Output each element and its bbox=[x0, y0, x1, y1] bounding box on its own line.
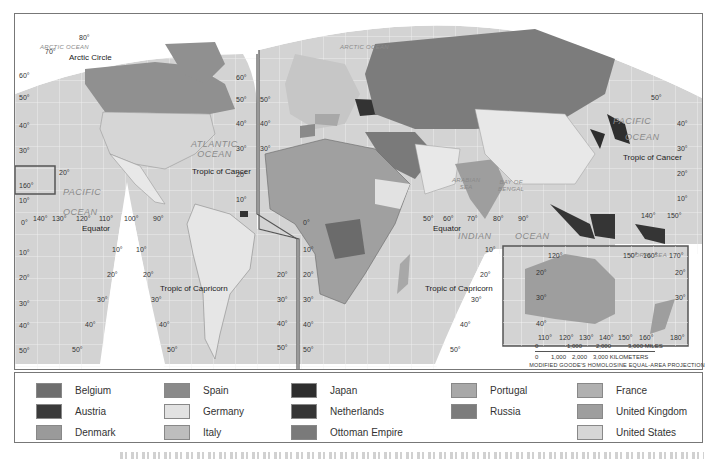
legend-item-japan: Japan bbox=[291, 381, 403, 400]
lon-label: 150° bbox=[623, 252, 637, 259]
lat-label: 30° bbox=[675, 294, 686, 301]
legend-swatch bbox=[36, 425, 62, 440]
ocean-label: BAY OF BENGAL bbox=[498, 179, 524, 193]
world-map: ARCTIC OCEAN ARCTIC OCEAN ATLANTIC OCEAN… bbox=[14, 13, 703, 370]
lon-label: 60° bbox=[443, 215, 454, 222]
legend-swatch bbox=[164, 425, 190, 440]
lat-label: 20° bbox=[536, 269, 547, 276]
lon-label: 160° bbox=[19, 182, 33, 189]
lon-label: 90° bbox=[518, 215, 529, 222]
ocean-label: OCEAN bbox=[625, 132, 660, 142]
lat-label: 40° bbox=[277, 320, 288, 327]
lat-label: 0° bbox=[303, 219, 310, 226]
lat-label: 30° bbox=[151, 296, 162, 303]
lon-label: 50° bbox=[423, 215, 434, 222]
lon-label: 130° bbox=[52, 215, 66, 222]
lat-label: 40° bbox=[85, 321, 96, 328]
lat-label: 60° bbox=[19, 72, 30, 79]
map-scale: 0 1,000 2,000 3,000 MILES 0 1,000 2,000 … bbox=[520, 340, 705, 372]
lat-label: 10° bbox=[303, 246, 314, 253]
scale-miles-2000: 2,000 bbox=[596, 343, 611, 349]
legend-swatch bbox=[451, 404, 477, 419]
legend-label: Netherlands bbox=[330, 406, 384, 417]
legend-swatch bbox=[36, 404, 62, 419]
lat-label: 50° bbox=[19, 347, 30, 354]
lat-label: 20° bbox=[677, 170, 688, 177]
lat-label: 40° bbox=[677, 120, 688, 127]
legend-item-germany: Germany bbox=[164, 402, 244, 421]
caption-clipped bbox=[120, 452, 704, 459]
legend-swatch bbox=[36, 383, 62, 398]
legend-label: Russia bbox=[490, 406, 521, 417]
legend-label: France bbox=[616, 385, 647, 396]
lat-label: 60° bbox=[236, 74, 247, 81]
lat-label: 50° bbox=[236, 96, 247, 103]
lat-label: 10° bbox=[236, 196, 247, 203]
lat-label: 30° bbox=[260, 145, 271, 152]
lon-label: 140° bbox=[33, 215, 47, 222]
legend-swatch bbox=[451, 383, 477, 398]
lat-label: 20° bbox=[107, 271, 118, 278]
legend-column: Japan Netherlands Ottoman Empire bbox=[291, 381, 403, 444]
legend-item-united-kingdom: United Kingdom bbox=[577, 402, 687, 421]
scale-miles-1000: 1,000 bbox=[567, 343, 582, 349]
tropic-of-capricorn-label: Tropic of Capricorn bbox=[160, 284, 228, 293]
ocean-label: PACIFIC bbox=[613, 116, 651, 126]
legend-swatch bbox=[164, 404, 190, 419]
lat-label: 50° bbox=[277, 344, 288, 351]
legend-label: Denmark bbox=[75, 427, 116, 438]
legend-label: Portugal bbox=[490, 385, 527, 396]
legend-swatch bbox=[291, 425, 317, 440]
lon-label: 90° bbox=[153, 215, 164, 222]
ocean-label: OCEAN bbox=[515, 231, 550, 241]
lat-label: 40° bbox=[159, 321, 170, 328]
lat-label: 20° bbox=[480, 271, 491, 278]
ocean-label: ATLANTIC OCEAN bbox=[191, 139, 238, 160]
scale-km-0: 0 bbox=[535, 354, 538, 360]
lat-label: 80° bbox=[79, 34, 90, 41]
legend-item-belgium: Belgium bbox=[36, 381, 116, 400]
legend-label: United States bbox=[616, 427, 676, 438]
legend-label: Ottoman Empire bbox=[330, 427, 403, 438]
scale-bar bbox=[535, 351, 655, 352]
lat-label: 50° bbox=[651, 94, 662, 101]
equator-label: Equator bbox=[433, 224, 461, 233]
legend-item-russia: Russia bbox=[451, 402, 527, 421]
lat-label: 30° bbox=[19, 147, 30, 154]
lat-label: 40° bbox=[19, 322, 30, 329]
lon-label: 140° bbox=[641, 212, 655, 219]
legend-label: United Kingdom bbox=[616, 406, 687, 417]
legend-item-portugal: Portugal bbox=[451, 381, 527, 400]
arctic-circle-label: Arctic Circle bbox=[69, 53, 112, 62]
lon-label: 120° bbox=[76, 215, 90, 222]
legend-column: Portugal Russia bbox=[451, 381, 527, 423]
lat-label: 40° bbox=[236, 120, 247, 127]
legend-item-austria: Austria bbox=[36, 402, 116, 421]
scale-km-1000: 1,000 bbox=[551, 354, 566, 360]
lat-label: 10° bbox=[19, 249, 30, 256]
lat-label: 30° bbox=[536, 294, 547, 301]
legend-label: Austria bbox=[75, 406, 106, 417]
lon-label: 100° bbox=[124, 215, 138, 222]
legend-label: Spain bbox=[203, 385, 229, 396]
lat-label: 30° bbox=[19, 300, 30, 307]
lat-label: 50° bbox=[167, 346, 178, 353]
lon-label: 120° bbox=[548, 252, 562, 259]
lat-label: 50° bbox=[303, 346, 314, 353]
lat-label: 20° bbox=[277, 271, 288, 278]
lat-label: 40° bbox=[19, 122, 30, 129]
legend-swatch bbox=[164, 383, 190, 398]
ocean-label: INDIAN bbox=[458, 231, 492, 241]
lat-label: 40° bbox=[303, 321, 314, 328]
lon-label: 150° bbox=[667, 212, 681, 219]
lat-label: 30° bbox=[97, 296, 108, 303]
ocean-label: ARCTIC OCEAN bbox=[340, 44, 389, 51]
projection-label: MODIFIED GOODE'S HOMOLOSINE EQUAL-AREA P… bbox=[520, 362, 705, 368]
lat-label: 10° bbox=[136, 246, 147, 253]
lon-label: 70° bbox=[467, 215, 478, 222]
lat-label: 20° bbox=[303, 271, 314, 278]
legend-item-denmark: Denmark bbox=[36, 423, 116, 442]
legend-label: Japan bbox=[330, 385, 357, 396]
lat-label: 20° bbox=[143, 271, 154, 278]
legend-item-united-states: United States bbox=[577, 423, 687, 442]
